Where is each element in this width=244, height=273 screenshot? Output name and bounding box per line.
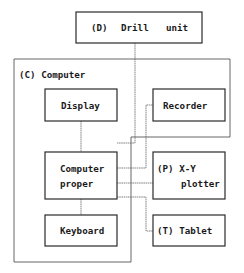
keyboard-label: Keyboard (60, 225, 104, 236)
display-label: Display (61, 100, 100, 111)
keyboard-box: Keyboard (45, 215, 117, 246)
drill-unit-code: (D) (91, 22, 108, 33)
xy-plotter-line1: (P) X-Y (157, 163, 196, 174)
xy-plotter-line2: plotter (181, 178, 220, 189)
drill-unit-word1: Drill (121, 22, 149, 33)
drill-to-computer-connector (117, 43, 135, 143)
computer-group-label: (C) Computer (19, 69, 86, 80)
recorder-label: Recorder (163, 100, 208, 111)
computer-to-tablet-connector (117, 197, 153, 231)
recorder-box: Recorder (153, 89, 225, 121)
xy-plotter-box: (P) X-Y plotter (153, 152, 225, 199)
display-box: Display (45, 89, 117, 121)
drill-unit-word2: unit (166, 22, 188, 33)
drill-unit-box: (D) Drill unit (76, 12, 202, 43)
system-block-diagram: (D) Drill unit (C) Computer Display Comp… (0, 0, 244, 273)
computer-proper-line1: Computer (60, 163, 105, 174)
computer-proper-box: Computer proper (45, 152, 117, 199)
tablet-label: (T) Tablet (157, 225, 212, 236)
computer-proper-line2: proper (60, 178, 94, 189)
tablet-box: (T) Tablet (153, 215, 225, 246)
